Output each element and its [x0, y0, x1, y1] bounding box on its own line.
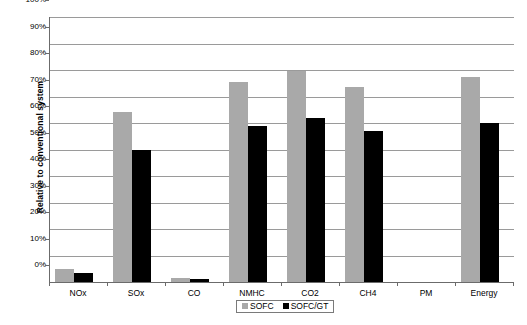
bar-group: [397, 17, 455, 282]
bar: [190, 279, 209, 282]
bar: [55, 269, 74, 282]
x-tick-mark: [107, 282, 108, 286]
x-tick-mark: [339, 282, 340, 286]
bar: [480, 123, 499, 282]
legend-swatch-icon: [283, 303, 289, 309]
x-axis-label-sox: SOx: [106, 288, 166, 298]
y-tick-label: 70%: [4, 76, 46, 84]
x-axis-label-ch4: CH4: [338, 288, 398, 298]
y-tick-label: 90%: [4, 23, 46, 31]
bars-layer: [49, 17, 513, 282]
bar: [364, 131, 383, 282]
bar: [132, 150, 151, 283]
x-tick-mark: [281, 282, 282, 286]
x-tick-mark: [49, 282, 50, 286]
legend-label: SOFC: [250, 302, 274, 311]
legend-label: SOFC/GT: [291, 302, 329, 311]
y-tick-mark: [45, 0, 49, 1]
chart-legend: SOFCSOFC/GT: [236, 300, 334, 313]
x-axis-label-co: CO: [164, 288, 224, 298]
bar: [287, 71, 306, 282]
bar-chart: Relative to conventional system 100%90%8…: [0, 0, 527, 325]
bar-group: [165, 17, 223, 282]
x-axis-label-nmhc: NMHC: [222, 288, 282, 298]
y-tick-label: 20%: [4, 208, 46, 216]
bar-group: [107, 17, 165, 282]
bar-group: [455, 17, 513, 282]
x-axis-label-pm: PM: [396, 288, 456, 298]
x-axis-label-co2: CO2: [280, 288, 340, 298]
legend-entry: SOFC: [242, 302, 274, 311]
y-tick-label: 50%: [4, 129, 46, 137]
bar: [113, 112, 132, 282]
bar: [345, 87, 364, 282]
bar-group: [281, 17, 339, 282]
y-axis-ticks: 100%90%80%70%60%50%40%30%20%10%0%: [0, 0, 46, 265]
y-tick-label: 60%: [4, 102, 46, 110]
y-tick-label: 30%: [4, 182, 46, 190]
y-tick-label: 40%: [4, 155, 46, 163]
x-axis-label-energy: Energy: [454, 288, 514, 298]
bar-group: [49, 17, 107, 282]
bar: [306, 118, 325, 282]
x-tick-mark: [513, 282, 514, 286]
bar: [74, 273, 93, 282]
x-tick-mark: [397, 282, 398, 286]
y-tick-label: 80%: [4, 49, 46, 57]
legend-entry: SOFC/GT: [283, 302, 329, 311]
legend-swatch-icon: [242, 303, 248, 309]
bar: [171, 278, 190, 282]
y-tick-label: 100%: [4, 0, 46, 4]
x-tick-mark: [455, 282, 456, 286]
bar-group: [339, 17, 397, 282]
bar: [248, 126, 267, 282]
x-tick-mark: [165, 282, 166, 286]
y-tick-label: 0%: [4, 261, 46, 269]
bar-group: [223, 17, 281, 282]
y-tick-label: 10%: [4, 235, 46, 243]
bar: [461, 77, 480, 282]
x-tick-mark: [223, 282, 224, 286]
x-axis-label-nox: NOx: [48, 288, 108, 298]
bar: [229, 82, 248, 282]
